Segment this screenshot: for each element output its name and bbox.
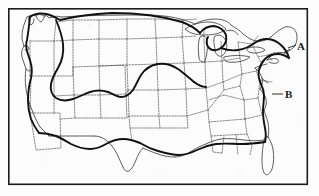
figure-container: A B <box>0 0 319 196</box>
label-b: B <box>285 88 293 100</box>
us-map-figure: A B <box>0 0 319 196</box>
label-a: A <box>297 40 305 52</box>
